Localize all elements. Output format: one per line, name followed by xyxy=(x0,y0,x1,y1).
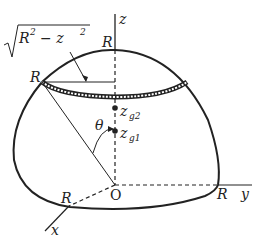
ring-band xyxy=(42,82,187,97)
ring-radius-minus-z: − z xyxy=(40,30,64,46)
origin-label: O xyxy=(110,187,121,203)
ring-radius-base: R xyxy=(18,30,30,46)
ring-radius-sup2: 2 xyxy=(79,27,86,37)
ring-radius-arrowhead xyxy=(82,75,88,82)
x-axis-label: x xyxy=(51,222,59,238)
theta-label: θ xyxy=(95,117,104,133)
z-axis-label: z xyxy=(118,11,127,27)
zg2-point xyxy=(112,105,118,111)
zg2-sub: g2 xyxy=(129,111,141,121)
zg1-sub: g1 xyxy=(129,133,141,143)
x-axis-dashed xyxy=(69,185,115,206)
y-axis-label: y xyxy=(240,186,250,202)
radius-left-label: R xyxy=(29,69,41,85)
zg1-point xyxy=(112,128,118,134)
radius-right-label: R xyxy=(216,186,228,202)
ring-radius-sup1: 2 xyxy=(29,27,36,37)
hemisphere-diagram: R 2 − z 2 z R R θ z g2 z g1 O R y R x xyxy=(0,0,262,245)
radius-top-label: R xyxy=(101,34,113,50)
zg2-label: z xyxy=(119,103,128,119)
radius-front-label: R xyxy=(60,190,72,206)
zg1-label: z xyxy=(119,125,128,141)
